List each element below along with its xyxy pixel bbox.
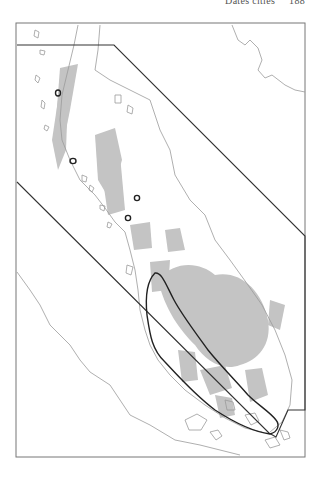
site-marker	[125, 215, 130, 220]
site-marker	[134, 195, 139, 200]
map-figure	[0, 0, 323, 477]
